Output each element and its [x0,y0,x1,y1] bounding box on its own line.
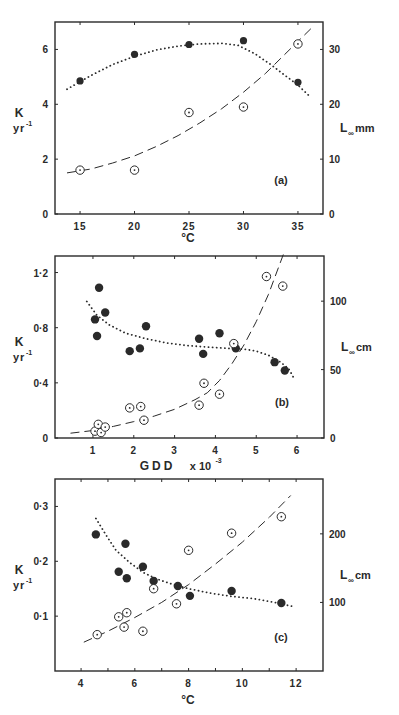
x-axis-label: °C [181,231,195,245]
x-tick-label: 15 [73,221,86,232]
l-inf-subscript: ∞ [348,576,354,585]
k-data-point [131,51,138,58]
k-axis-unit-exponent: -1 [26,120,32,127]
k-data-point [294,79,301,86]
x-axis-label: °C [181,693,195,707]
l-inf-data-point-center [198,404,200,406]
l-inf-data-point-center [280,516,282,518]
k-data-point [186,592,194,600]
k-axis-unit: yr [13,351,25,363]
l-inf-data-point-center [219,393,221,395]
l-inf-data-point-center [203,382,205,384]
k-data-point [76,77,83,84]
x-tick-label: 6 [294,445,301,456]
y-tick-label-left: 0·8 [34,323,49,334]
l-inf-data-point-center [100,432,102,434]
l-inf-data-point-center [79,169,81,171]
x-tick-label: 20 [128,221,141,232]
l-inf-data-point-center [94,430,96,432]
k-data-point [101,308,109,316]
y-tick-label-right: 0 [329,209,335,220]
k-data-point [91,315,99,323]
k-data-point [195,335,203,343]
k-fit-curve-dotted [96,519,292,607]
k-data-point [95,284,103,292]
y-tick-label-left: 0·2 [34,556,49,567]
k-data-point [92,530,100,538]
l-inf-data-point-center [118,616,120,618]
l-inf-data-point-center [142,630,144,632]
y-tick-label-left: 6 [42,44,48,55]
k-fit-curve-dotted [67,43,309,95]
x-tick-label: 2 [131,445,138,456]
y-tick-label-left: 0·4 [34,378,49,389]
y-tick-label-left: 4 [42,99,48,110]
k-data-point [185,41,192,48]
k-data-point [121,540,129,548]
x-tick-label: 5 [253,445,260,456]
k-data-point [240,37,247,44]
y-tick-label-left: 2 [42,154,48,165]
l-inf-data-point-center [188,112,190,114]
y-tick-label-right: 0 [330,433,336,444]
k-axis-unit: yr [13,579,25,591]
k-data-point [199,350,207,358]
x-tick-label: 35 [291,221,304,232]
k-axis-label: K [15,335,24,349]
y-tick-label-right: 100 [329,597,346,608]
k-data-point [227,587,235,595]
y-tick-label-left: 0·1 [34,611,49,622]
x-axis-label-exponent: -3 [216,457,222,464]
l-inf-data-point-center [129,407,131,409]
l-inf-data-point-center [140,406,142,408]
x-tick-label: 30 [237,221,250,232]
l-inf-data-point-center [153,588,155,590]
l-inf-axis-unit: mm [355,122,375,134]
three-panel-scatter-chart: 152025303502460102030Kyr-1L∞ mm°C(a)1234… [0,0,399,715]
l-inf-data-point-center [188,549,190,551]
l-inf-data-point-center [231,532,233,534]
k-data-point [136,344,144,352]
l-inf-data-point-center [96,634,98,636]
x-tick-label: 6 [132,678,139,689]
k-data-point [277,599,285,607]
l-inf-data-point-center [297,43,299,45]
l-inf-data-point-center [97,423,99,425]
k-axis-unit: yr [13,122,25,134]
k-fit-curve-dotted [87,302,295,381]
k-axis-label: K [15,563,24,577]
k-data-point [139,563,147,571]
l-inf-fit-curve-dashed [67,28,312,173]
l-inf-data-point-center [143,419,145,421]
y-tick-label-right: 30 [329,44,341,55]
y-tick-label-left: 1·2 [34,268,49,279]
l-inf-data-point-center [134,169,136,171]
l-inf-data-point-center [243,106,245,108]
y-tick-label-right: 50 [330,365,342,376]
l-inf-axis-label: L [340,121,347,135]
k-data-point [115,568,123,576]
l-inf-data-point-center [282,285,284,287]
l-inf-fit-curve-dashed [71,251,285,434]
l-inf-subscript: ∞ [349,348,355,357]
x-tick-label: 10 [236,678,249,689]
x-tick-label: 12 [290,678,303,689]
k-data-point [142,322,150,330]
l-inf-data-point-center [123,626,125,628]
y-tick-label-right: 200 [329,529,346,540]
l-inf-axis-label: L [340,568,347,582]
x-axis-label-multiplier: x 10 [190,460,211,472]
panel-tag: (a) [274,174,288,186]
k-data-point [93,332,101,340]
x-axis-label: GDD [140,459,176,473]
k-data-point [123,574,131,582]
panel-tag: (c) [274,631,288,643]
y-tick-label-right: 20 [329,99,341,110]
panel-tag: (b) [275,396,289,408]
k-data-point [174,582,182,590]
y-tick-label-left: 0 [42,209,48,220]
y-tick-label-left: 0 [42,433,48,444]
l-inf-axis-unit: cm [356,341,372,353]
x-tick-label: 3 [171,445,178,456]
l-inf-data-point-center [176,603,178,605]
